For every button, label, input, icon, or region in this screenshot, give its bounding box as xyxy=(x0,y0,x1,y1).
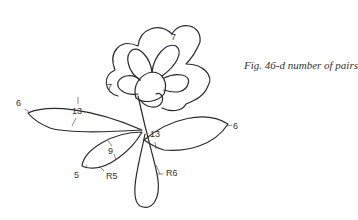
label-small-leaf-width: 9 xyxy=(108,146,113,156)
inner-petal-top-right xyxy=(152,45,179,76)
label-stem-loop-radius: R6 xyxy=(166,168,178,178)
figure-caption: Fig. 46-d number of pairs xyxy=(244,59,358,71)
flower-center xyxy=(135,72,166,101)
inner-petal-right xyxy=(164,75,189,92)
label-outer-petal-left: 7 xyxy=(107,82,112,92)
label-small-leaf-tip: 5 xyxy=(74,170,79,180)
label-outer-petal-top: 7 xyxy=(171,32,176,42)
label-left-leaf-tip: 6 xyxy=(16,98,21,108)
label-right-leaf-tip: 6 xyxy=(233,121,238,131)
outer-petal-outline xyxy=(106,26,209,111)
inner-petal-bottom xyxy=(140,93,163,107)
stem-loop xyxy=(135,96,159,207)
label-right-leaf-width: 13 xyxy=(150,129,160,139)
label-small-leaf-radius: R5 xyxy=(106,171,118,181)
label-left-leaf-width: 13 xyxy=(72,106,82,116)
left-leaf xyxy=(28,109,142,132)
